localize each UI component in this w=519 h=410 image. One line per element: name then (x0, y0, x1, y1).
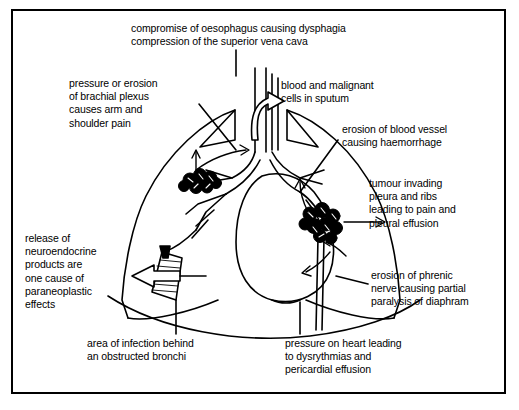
leader-erosion-vessel (300, 140, 338, 192)
label-erosion-blood-vessel: erosion of blood vessel causing haemorrh… (342, 123, 502, 149)
leader-phrenic (336, 276, 368, 284)
label-phrenic-nerve-erosion: erosion of phrenic nerve causing partial… (371, 269, 516, 309)
label-neuroendocrine-products: release of neuroendocrine products are o… (25, 232, 125, 311)
hollow-arrow-sputum (252, 92, 284, 140)
phrenic-nerve-line-1 (316, 238, 318, 330)
left-bronchus-branch-c (192, 210, 214, 238)
label-brachial-plexus: pressure or erosion of brachial plexus c… (69, 77, 199, 130)
left-lung-lower-edge (128, 300, 218, 319)
tumour-mass-right (299, 203, 343, 245)
phrenic-nerve-line-2 (322, 238, 324, 330)
label-tumour-invading-pleura: tumour invading pleura and ribs leading … (369, 177, 514, 230)
diagram-page: compromise of oesophagus causing dysphag… (0, 0, 519, 410)
label-oesophagus-compromise: compromise of oesophagus causing dysphag… (131, 22, 381, 48)
arrow-tumour-left-to-bronchus (196, 145, 249, 170)
label-blood-malignant-cells: blood and malignant cells in sputum (281, 79, 421, 105)
label-area-of-infection: area of infection behind an obstructed b… (87, 337, 262, 363)
arrow-heart-pressure-left (302, 252, 330, 276)
label-pressure-on-heart: pressure on heart leading to dysrythmias… (285, 337, 460, 377)
